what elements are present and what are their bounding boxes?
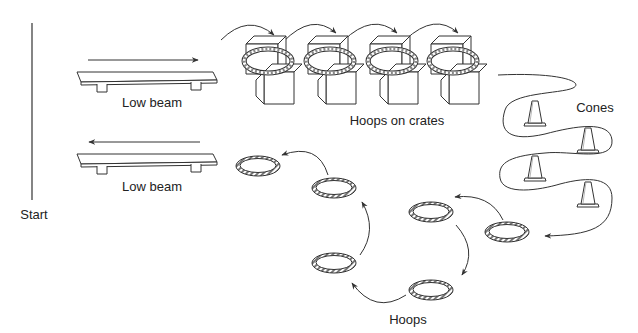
crate-hoop-4 <box>429 36 487 104</box>
cone-2 <box>577 128 599 153</box>
crate-hoop-3 <box>368 36 426 104</box>
floor-hoop-2 <box>409 202 453 222</box>
floor-hoop-3 <box>409 280 453 300</box>
crates-label: Hoops on crates <box>350 114 445 127</box>
floor-hoop-5 <box>312 178 356 198</box>
beam-2 <box>77 154 217 174</box>
cone-path <box>498 74 612 236</box>
cone-4 <box>577 182 599 207</box>
cone-3 <box>524 156 546 181</box>
cones-label: Cones <box>576 101 614 114</box>
floor-hoop-1 <box>485 222 529 242</box>
crate-hoop-2 <box>306 36 364 104</box>
course-drawing <box>0 0 638 333</box>
cone-1 <box>524 101 546 126</box>
beam-1-label: Low beam <box>122 96 182 109</box>
floor-hoop-6 <box>236 156 280 176</box>
crate-hoop-1 <box>244 36 302 104</box>
beam-1 <box>77 72 217 92</box>
floor-hoop-4 <box>312 253 356 273</box>
start-label: Start <box>20 208 47 221</box>
obstacle-course-diagram: Start Low beam Low beam Hoops on crates … <box>0 0 638 333</box>
hoops-label: Hoops <box>389 313 427 326</box>
beam-2-label: Low beam <box>122 180 182 193</box>
